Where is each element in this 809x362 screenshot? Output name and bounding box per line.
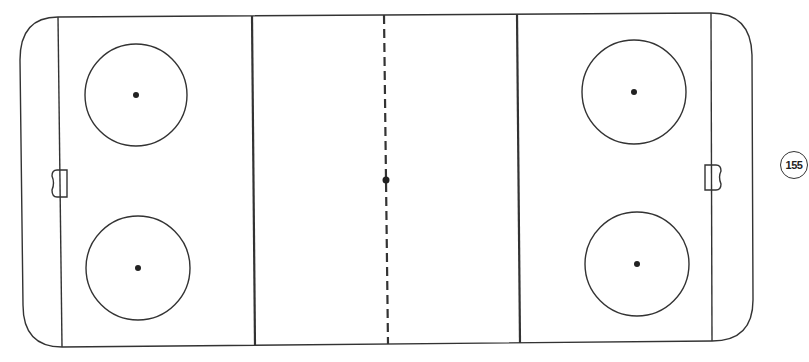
faceoff-dot-top-left <box>133 92 139 98</box>
left-goal-line <box>58 17 62 347</box>
center-faceoff-dot <box>383 177 390 184</box>
right-blue-line <box>517 14 520 343</box>
left-blue-line <box>252 16 255 346</box>
faceoff-dot-bottom-left <box>135 265 141 271</box>
right-goal-icon <box>705 165 721 190</box>
faceoff-dot-bottom-right <box>634 261 640 267</box>
page-number-badge: 155 <box>780 151 808 179</box>
faceoff-dot-top-right <box>631 89 637 95</box>
right-goal-line <box>711 13 712 341</box>
hockey-rink-diagram <box>0 0 809 362</box>
